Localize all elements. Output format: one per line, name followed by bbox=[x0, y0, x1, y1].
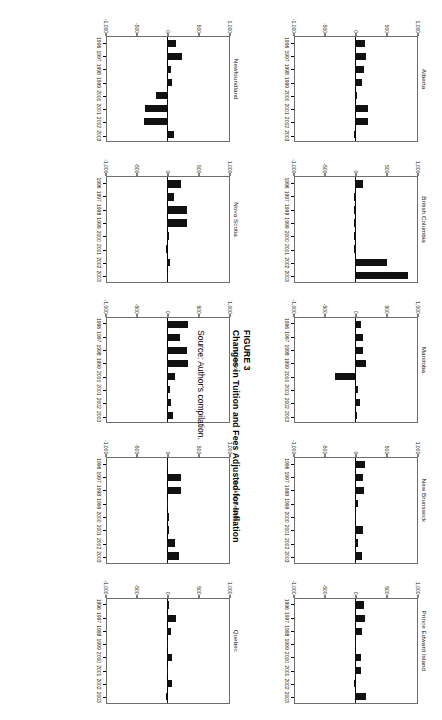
x-axis-tick-label: 2003 bbox=[96, 411, 102, 422]
bar bbox=[355, 461, 365, 468]
plot-frame bbox=[294, 36, 418, 142]
bar bbox=[355, 118, 368, 125]
x-axis-tick-label: 1999 bbox=[96, 77, 102, 88]
x-axis-tick-mark bbox=[103, 477, 106, 478]
bar bbox=[167, 412, 173, 419]
bar-slot bbox=[295, 102, 417, 115]
x-axis-tick-mark bbox=[291, 697, 294, 698]
bar bbox=[355, 513, 356, 520]
bar-slot bbox=[107, 510, 229, 523]
plot-frame bbox=[106, 176, 230, 282]
bar bbox=[355, 105, 368, 112]
bar bbox=[167, 131, 174, 138]
bar-slot bbox=[295, 37, 417, 50]
bar-slot bbox=[295, 651, 417, 664]
x-axis-tick-label: 1998 bbox=[284, 204, 290, 215]
x-axis-tick-label: 1999 bbox=[284, 358, 290, 369]
x-axis-tick-mark bbox=[103, 83, 106, 84]
x-axis-tick-label: 2000 bbox=[96, 231, 102, 242]
bar bbox=[167, 347, 187, 354]
y-axis-tick-label: -1,000 bbox=[291, 440, 297, 454]
x-axis-tick-mark bbox=[291, 196, 294, 197]
x-axis-tick-label: 1996 bbox=[96, 318, 102, 329]
bar-slot bbox=[295, 638, 417, 651]
x-axis-tick-label: 1998 bbox=[96, 64, 102, 75]
plot-area: 1,0005000-500-1,000199619971998199920002… bbox=[278, 578, 418, 704]
x-axis-tick-label: 2000 bbox=[96, 371, 102, 382]
bar-slot bbox=[295, 357, 417, 370]
x-axis-tick-label: 1997 bbox=[284, 50, 290, 61]
bar bbox=[167, 272, 168, 279]
bar-slot bbox=[295, 243, 417, 256]
y-axis-tick-label: 1,000 bbox=[415, 442, 421, 455]
x-axis-tick-mark bbox=[291, 69, 294, 70]
bar-slot bbox=[295, 409, 417, 422]
bar bbox=[355, 321, 361, 328]
bar-slot bbox=[107, 269, 229, 282]
x-axis-tick-mark bbox=[103, 43, 106, 44]
x-axis-tick-label: 1999 bbox=[96, 358, 102, 369]
bar bbox=[167, 53, 182, 60]
bar bbox=[167, 526, 169, 533]
y-axis-tick-label: -500 bbox=[134, 444, 140, 454]
x-axis-tick-label: 1999 bbox=[284, 77, 290, 88]
panel-title: British Columbia bbox=[420, 156, 428, 282]
x-axis-tick-label: 2001 bbox=[96, 665, 102, 676]
x-axis-tick-label: 1997 bbox=[284, 612, 290, 623]
bar bbox=[355, 641, 356, 648]
bar-slot bbox=[295, 396, 417, 409]
x-axis-tick-mark bbox=[103, 557, 106, 558]
x-axis-tick-label: 2002 bbox=[284, 398, 290, 409]
bar-series bbox=[107, 37, 229, 141]
plot-area: 1,0005000-500-1,000199619971998199920002… bbox=[278, 156, 418, 282]
plot-frame bbox=[294, 317, 418, 423]
y-axis-tick-label: -1,000 bbox=[103, 300, 109, 314]
bar-slot bbox=[107, 497, 229, 510]
x-axis-tick-mark bbox=[103, 504, 106, 505]
x-axis-tick-label: 2003 bbox=[96, 271, 102, 282]
bar bbox=[167, 66, 171, 73]
x-axis-tick-label: 2003 bbox=[96, 692, 102, 703]
x-axis-tick-label: 2003 bbox=[284, 411, 290, 422]
bar-slot bbox=[107, 115, 229, 128]
x-axis-tick-label: 1997 bbox=[96, 612, 102, 623]
x-axis-tick-mark bbox=[103, 56, 106, 57]
bar-slot bbox=[107, 625, 229, 638]
bar-slot bbox=[107, 230, 229, 243]
x-axis-tick-label: 2001 bbox=[284, 665, 290, 676]
bar-slot bbox=[295, 76, 417, 89]
y-axis: 1,0005000-500-1,000 bbox=[106, 297, 230, 317]
bar-slot bbox=[295, 664, 417, 677]
bar-slot bbox=[107, 243, 229, 256]
x-axis-tick-label: 1998 bbox=[284, 485, 290, 496]
x-axis-tick-mark bbox=[291, 109, 294, 110]
x-axis-tick-label: 2001 bbox=[284, 384, 290, 395]
bar-slot bbox=[295, 256, 417, 269]
bar-slot bbox=[107, 651, 229, 664]
bar bbox=[167, 539, 175, 546]
bar-slot bbox=[107, 523, 229, 536]
x-axis-tick-mark bbox=[291, 464, 294, 465]
bar bbox=[167, 399, 171, 406]
y-axis-tick-label: -1,000 bbox=[291, 300, 297, 314]
x-axis-tick-mark bbox=[103, 618, 106, 619]
x-axis-tick-mark bbox=[291, 183, 294, 184]
bar bbox=[167, 232, 169, 239]
bar-slot bbox=[295, 203, 417, 216]
bar bbox=[354, 206, 355, 213]
bar bbox=[167, 654, 172, 661]
x-axis-tick-mark bbox=[103, 350, 106, 351]
bar-slot bbox=[107, 89, 229, 102]
panel-title: Manitoba bbox=[420, 297, 428, 423]
bar bbox=[167, 206, 187, 213]
bar bbox=[355, 412, 357, 419]
x-axis-tick-label: 2003 bbox=[284, 692, 290, 703]
bar-slot bbox=[295, 497, 417, 510]
x-axis-tick-label: 1998 bbox=[284, 64, 290, 75]
x-axis-tick-mark bbox=[103, 363, 106, 364]
x-axis-tick-mark bbox=[291, 136, 294, 137]
bar bbox=[167, 552, 179, 559]
x-axis-tick-mark bbox=[291, 604, 294, 605]
bar bbox=[167, 601, 169, 608]
bar bbox=[167, 373, 175, 380]
